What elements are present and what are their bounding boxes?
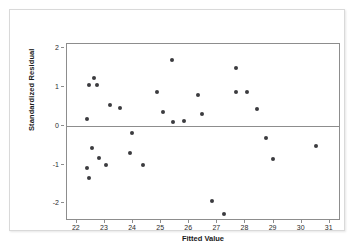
y-tick-mark [61,125,64,126]
data-point [104,163,108,167]
plot-frame [66,43,340,220]
x-tick-label: 31 [325,224,333,231]
x-tick-label: 26 [184,224,192,231]
data-point [171,120,175,124]
data-point [141,163,145,167]
y-tick-mark [61,164,64,165]
data-point [92,76,96,80]
data-point [255,107,259,111]
y-axis-ticks: 210-1-2 [50,43,64,220]
x-tick-mark [160,220,161,223]
data-point [210,199,214,203]
data-point [155,90,159,94]
x-tick-label: 25 [156,224,164,231]
data-point [196,93,200,97]
x-tick-label: 24 [128,224,136,231]
x-tick-mark [329,220,330,223]
x-tick-mark [301,220,302,223]
data-point [161,110,165,114]
data-point [222,212,226,216]
data-point [85,117,89,121]
data-point [130,131,134,135]
y-tick-label: 1 [55,82,59,89]
data-point [234,90,238,94]
data-point [271,157,275,161]
x-tick-label: 30 [297,224,305,231]
zero-line [67,126,339,127]
x-tick-mark [188,220,189,223]
x-tick-label: 29 [269,224,277,231]
x-tick-mark [132,220,133,223]
x-tick-mark [76,220,77,223]
data-point [245,90,249,94]
data-point [97,156,101,160]
y-tick-label: -2 [53,199,59,206]
data-point [90,146,94,150]
data-point [85,166,89,170]
data-point [264,136,268,140]
data-point [95,83,99,87]
data-point [118,106,122,110]
y-tick-label: -1 [53,160,59,167]
y-tick-label: 2 [55,43,59,50]
y-axis-title: Standardized Residual [27,48,36,131]
x-tick-mark [273,220,274,223]
y-tick-mark [61,202,64,203]
y-tick-mark [61,47,64,48]
data-point [87,176,91,180]
data-point [234,66,238,70]
data-point [170,58,174,62]
x-tick-label: 28 [241,224,249,231]
x-tick-label: 27 [212,224,220,231]
figure-card: 210-1-2 22232425262728293031 Standardize… [9,9,345,231]
data-point [87,83,91,87]
plot-area [67,44,339,219]
x-tick-mark [104,220,105,223]
x-tick-label: 23 [100,224,108,231]
data-point [182,119,186,123]
y-tick-label: 0 [55,121,59,128]
x-tick-label: 22 [72,224,80,231]
x-tick-mark [216,220,217,223]
data-point [108,103,112,107]
y-tick-mark [61,86,64,87]
data-point [314,144,318,148]
x-axis-title: Fitted Value [66,234,340,243]
x-tick-mark [244,220,245,223]
data-point [128,151,132,155]
residual-plot-figure: 210-1-2 22232425262728293031 Standardize… [0,0,356,249]
data-point [200,112,204,116]
